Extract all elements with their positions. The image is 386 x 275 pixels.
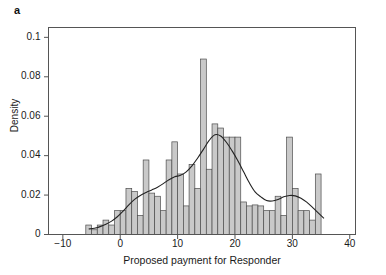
histogram-bar (109, 225, 115, 234)
x-axis-label: Proposed payment for Responder (48, 254, 356, 266)
histogram-bar (264, 211, 270, 235)
x-tick-label: −10 (43, 238, 83, 249)
histogram-bar (275, 196, 281, 234)
histogram-bar (212, 124, 218, 235)
histogram-bar (287, 137, 293, 234)
histogram-bar (281, 215, 287, 234)
y-tick-label: 0.08 (1, 70, 41, 81)
histogram-bar (160, 211, 166, 235)
panel-label: a (14, 4, 20, 16)
y-tick-label: 0 (1, 228, 41, 239)
y-tick-label: 0.02 (1, 189, 41, 200)
histogram-bar (137, 215, 143, 234)
histogram-bar (86, 225, 92, 234)
histogram-bar (166, 160, 172, 235)
histogram-bar (206, 169, 212, 234)
histogram-bar (269, 211, 275, 235)
y-tick-label: 0.04 (1, 149, 41, 160)
histogram-bar (258, 206, 264, 235)
histogram-plot (0, 0, 386, 275)
x-tick-label: 30 (272, 238, 312, 249)
histogram-bar (235, 137, 241, 234)
histogram-bar (298, 211, 304, 235)
histogram-bar (304, 211, 310, 235)
histogram-bar (92, 230, 98, 235)
histogram-bar (178, 174, 184, 235)
x-tick-label: 0 (100, 238, 140, 249)
histogram-bar (172, 142, 178, 235)
histogram-bar (252, 205, 258, 235)
histogram-bars (86, 59, 321, 234)
histogram-bar (183, 206, 189, 235)
histogram-bar (246, 206, 252, 235)
histogram-bar (103, 220, 109, 234)
x-tick-label: 40 (330, 238, 370, 249)
histogram-bar (155, 196, 161, 234)
histogram-bar (149, 193, 155, 234)
histogram-bar (195, 188, 201, 234)
histogram-bar (126, 188, 132, 234)
histogram-bar (310, 220, 316, 234)
y-tick-label: 0.06 (1, 110, 41, 121)
histogram-bar (241, 202, 247, 235)
x-tick-label: 10 (158, 238, 198, 249)
histogram-bar (189, 165, 195, 235)
figure-panel-a: a Density Proposed payment for Responder… (0, 0, 386, 275)
histogram-bar (143, 160, 149, 235)
y-tick-label: 0.1 (1, 31, 41, 42)
histogram-bar (315, 174, 321, 235)
histogram-bar (224, 137, 230, 234)
histogram-bar (120, 211, 126, 235)
x-tick-label: 20 (215, 238, 255, 249)
histogram-bar (218, 128, 224, 234)
